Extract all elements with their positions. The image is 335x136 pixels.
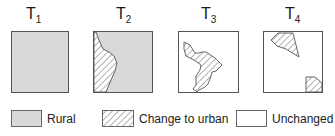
panel-t1 — [12, 32, 69, 93]
panel-title-subscript: 4 — [295, 14, 301, 25]
panel-title-subscript: 2 — [126, 14, 132, 25]
panel-t3 — [179, 32, 239, 93]
panel-title-main: T — [116, 5, 126, 22]
panel-title-t3: T3 — [201, 5, 216, 29]
legend-swatch-rural — [12, 111, 42, 127]
legend-label-change-to-urban: Change to urban — [139, 112, 228, 126]
panel-title-main: T — [285, 5, 295, 22]
legend-swatch-unchanged — [237, 111, 267, 127]
panel-t4 — [264, 32, 323, 93]
legend-swatch-change-to-urban — [103, 111, 134, 127]
rural-area — [12, 32, 69, 93]
legend-label-unchanged: Unchanged — [272, 112, 333, 126]
panel-title-subscript: 1 — [36, 14, 42, 25]
panel-title-t2: T2 — [116, 5, 131, 29]
panel-title-main: T — [201, 5, 211, 22]
panel-title-t4: T4 — [285, 5, 300, 29]
panel-title-t1: T1 — [26, 5, 41, 29]
panel-title-main: T — [26, 5, 36, 22]
panel-t2 — [94, 32, 153, 93]
panel-title-subscript: 3 — [211, 14, 217, 25]
legend-label-rural: Rural — [47, 112, 76, 126]
